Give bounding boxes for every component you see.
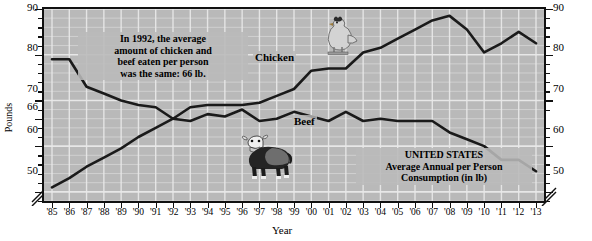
x-axis-tick-mark [52,203,53,208]
y-axis-tick-mark-right [546,128,550,129]
y-axis-tick-left-90: 90 [12,2,38,12]
series-label-chicken: Chicken [253,51,296,63]
x-axis-tick-mark [501,203,502,208]
y-axis-tick-right-90: 90 [553,2,579,12]
y-axis-tick-mark-right [546,183,550,184]
y-axis-tick-mark-left [38,155,42,156]
y-axis-tick-mark-left [38,137,42,138]
y-axis-tick-mark-right [546,9,553,10]
y-axis-tick-mark-left [38,82,42,83]
chicken-illustration-icon [315,13,361,59]
y-axis-title: Pounds [3,90,14,146]
y-axis-tick-right-80: 80 [553,42,579,52]
x-axis-tick-mark [294,203,295,208]
y-axis-tick-mark-left [38,73,42,74]
y-axis-tick-mark-left [35,9,42,10]
annotation-us-line1: UNITED STATES [359,149,529,161]
y-axis-tick-mark-right [546,110,550,111]
y-axis-tick-right-60: 60 [553,124,579,134]
x-axis-tick-mark [415,203,416,208]
y-axis-tick-mark-right [546,46,550,47]
y-axis-tick-left-50: 50 [12,165,38,175]
x-axis-tick-mark [536,203,537,208]
x-axis-tick-mark [138,203,139,208]
x-axis-tick-mark [450,203,451,208]
chart-figure: Pounds 90 80 70 66 60 50 90 80 70 60 50 … [0,0,592,241]
annotation-united-states: UNITED STATES Average Annual per Person … [356,148,532,185]
x-axis-tick-mark [311,203,312,208]
y-axis-tick-mark-left [38,46,42,47]
y-axis-tick-right-70: 70 [553,83,579,93]
x-axis-tick-mark [277,203,278,208]
x-axis-tick-mark [104,203,105,208]
annotation-us-line3: Consumption (in lb) [359,172,529,184]
y-axis-tick-mark-right [546,146,553,147]
annotation-1992: In 1992, the average amount of chicken a… [78,32,248,80]
y-axis-tick-mark-right [546,100,553,101]
cow-illustration-icon [232,128,294,180]
annotation-1992-line4: was the same: 66 lb. [81,68,245,80]
y-axis-tick-mark-left [38,201,42,202]
x-axis-tick-mark [190,203,191,208]
y-axis-tick-mark-left [38,27,42,28]
annotation-1992-line1: In 1992, the average [81,33,245,45]
x-axis-tick-mark [225,203,226,208]
x-axis-tick-mark [432,203,433,208]
y-axis-tick-mark-right [546,164,550,165]
y-axis-tick-left-66: 66 [12,101,38,111]
x-axis-tick-mark [242,203,243,208]
y-axis-tick-mark-right [546,36,550,37]
x-axis-tick-mark [87,203,88,208]
y-axis-tick-mark-left [35,192,42,193]
annotation-1992-line2: amount of chicken and [81,45,245,57]
annotation-us-line2: Average Annual per Person [359,161,529,173]
series-label-beef: Beef [292,115,317,127]
x-axis-tick-mark [519,203,520,208]
y-axis-tick-mark-left [38,18,42,19]
y-axis-tick-mark-right [546,18,550,19]
x-axis-tick-mark [259,203,260,208]
x-axis-tick-mark [363,203,364,208]
y-axis-tick-mark-right [546,201,550,202]
y-axis-tick-left-80: 80 [12,42,38,52]
x-axis-tick-mark [380,203,381,208]
y-axis-tick-mark-right [546,137,550,138]
x-axis-tick-mark [484,203,485,208]
y-axis-tick-mark-left [38,174,42,175]
y-axis-tick-mark-right [546,155,550,156]
y-axis-tick-mark-left [35,119,42,120]
y-axis-tick-mark-right [546,174,550,175]
x-axis-tick-mark [346,203,347,208]
y-axis-tick-left-60: 60 [12,124,38,134]
x-axis-tick-mark [208,203,209,208]
y-axis-tick-mark-right [546,55,553,56]
y-axis-tick-mark-left [38,183,42,184]
x-axis-tick-y13: '13 [525,207,547,217]
y-axis-tick-mark-right [546,82,550,83]
y-axis-tick-mark-left [38,110,42,111]
y-axis-tick-mark-left [38,36,42,37]
y-axis-tick-left-70: 70 [12,83,38,93]
y-axis-tick-mark-left [38,164,42,165]
y-axis-tick-mark-right [546,73,550,74]
y-axis-tick-mark-left [35,100,42,101]
x-axis-tick-mark [121,203,122,208]
y-axis-tick-mark-right [546,27,550,28]
x-axis-tick-mark [467,203,468,208]
y-axis-tick-mark-left [35,146,42,147]
y-axis-tick-mark-right [546,192,553,193]
x-axis-tick-mark [156,203,157,208]
y-axis-tick-mark-left [35,55,42,56]
y-axis-tick-mark-right [546,64,550,65]
x-axis-tick-mark [398,203,399,208]
x-axis-tick-mark [329,203,330,208]
y-axis-tick-mark-left [38,64,42,65]
y-axis-tick-mark-left [38,91,42,92]
x-axis-title: Year [272,224,292,236]
y-axis-tick-right-50: 50 [553,165,579,175]
x-axis-tick-mark [69,203,70,208]
y-axis-tick-mark-left [38,128,42,129]
annotation-1992-line3: beef eaten per person [81,56,245,68]
y-axis-tick-mark-right [546,91,550,92]
x-axis-tick-mark [173,203,174,208]
